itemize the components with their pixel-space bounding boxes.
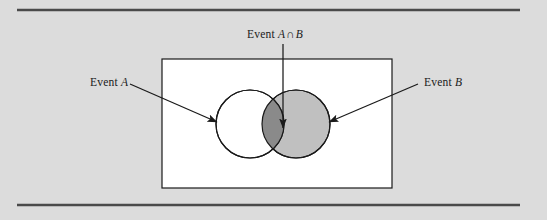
label-event-b: Event B [424,76,462,89]
figure-container: Event A Event A∩B Event B [0,0,547,220]
label-intersection: Event A∩B [247,28,303,41]
label-event-b-prefix: Event [424,76,452,88]
label-intersection-prefix: Event [247,28,275,40]
label-intersection-right-symbol: B [296,28,303,40]
label-event-b-symbol: B [455,76,462,88]
label-event-a-symbol: A [121,76,128,88]
intersection-operator-icon: ∩ [285,28,296,40]
label-event-a: Event A [90,76,128,89]
label-event-a-prefix: Event [90,76,118,88]
